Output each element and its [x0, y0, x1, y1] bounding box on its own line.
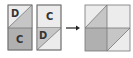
panel-1: D C: [8, 5, 32, 50]
right-arrow-icon: [66, 26, 80, 31]
label-c: C: [16, 33, 23, 46]
panel-result: [85, 5, 130, 51]
label-d: D: [11, 7, 19, 20]
folding-diagram: D C C D: [0, 0, 133, 58]
panel-2: C D: [37, 5, 61, 50]
label-d: D: [39, 29, 47, 42]
label-c: C: [46, 10, 53, 23]
